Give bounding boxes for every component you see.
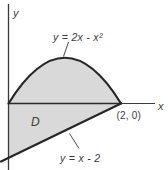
- parabola-equation-label: y = 2x - x²: [52, 31, 103, 43]
- plot-canvas: y x y = 2x - x² D (2, 0) y = x - 2: [0, 0, 168, 170]
- point-2-0-label: (2, 0): [117, 110, 142, 121]
- line-label-leader: [70, 134, 80, 149]
- region-of-integration-figure: y x y = 2x - x² D (2, 0) y = x - 2: [0, 0, 168, 170]
- region-d-fill: [9, 58, 122, 158]
- parabola-label-leader: [64, 42, 69, 57]
- line-equation-label: y = x - 2: [59, 152, 100, 164]
- region-d-label: D: [31, 115, 40, 129]
- y-axis-label: y: [12, 7, 20, 19]
- x-axis-label: x: [157, 100, 164, 112]
